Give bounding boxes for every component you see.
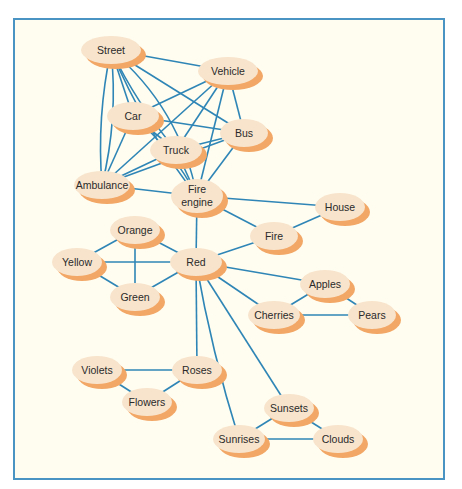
node-label: Sunsets xyxy=(270,402,308,414)
node-label: Red xyxy=(186,256,205,268)
edge-red-sunrises xyxy=(196,262,239,439)
node-label: House xyxy=(325,201,356,213)
node-cherries: Cherries xyxy=(248,301,305,334)
node-label: Orange xyxy=(117,224,152,236)
semantic-network-graph: StreetVehicleCarBusTruckAmbulanceFireeng… xyxy=(0,0,462,489)
node-vehicle: Vehicle xyxy=(198,57,263,90)
node-label: Green xyxy=(120,291,149,303)
node-label: Cherries xyxy=(254,309,294,321)
node-pears: Pears xyxy=(348,301,401,334)
node-label: Yellow xyxy=(62,256,92,268)
node-car: Car xyxy=(107,102,164,135)
node-label: Violets xyxy=(81,364,112,376)
node-sunsets: Sunsets xyxy=(264,394,319,427)
node-label: Pears xyxy=(358,309,385,321)
node-roses: Roses xyxy=(172,356,227,389)
node-label: Car xyxy=(125,110,142,122)
node-clouds: Clouds xyxy=(313,425,368,458)
node-label: Fire xyxy=(265,230,283,242)
node-bus: Bus xyxy=(220,119,273,152)
node-label: Sunrises xyxy=(219,433,260,445)
node-label: Roses xyxy=(182,364,212,376)
node-label: Apples xyxy=(309,278,341,290)
node-fire-engine: Fireengine xyxy=(171,179,228,218)
node-label: Flowers xyxy=(129,396,166,408)
node-label: Vehicle xyxy=(211,65,245,77)
node-yellow: Yellow xyxy=(52,248,107,281)
node-label: Ambulance xyxy=(76,179,129,191)
node-house: House xyxy=(315,193,370,226)
node-green: Green xyxy=(110,283,165,316)
node-sunrises: Sunrises xyxy=(213,425,270,458)
node-flowers: Flowers xyxy=(122,388,177,421)
node-label: Truck xyxy=(163,144,190,156)
node-street: Street xyxy=(81,36,146,69)
node-orange: Orange xyxy=(110,216,165,249)
node-label: Bus xyxy=(235,127,253,139)
node-label: Clouds xyxy=(322,433,355,445)
node-apples: Apples xyxy=(300,270,355,303)
node-label: Street xyxy=(97,44,125,56)
node-violets: Violets xyxy=(72,356,127,389)
node-red: Red xyxy=(170,248,227,281)
